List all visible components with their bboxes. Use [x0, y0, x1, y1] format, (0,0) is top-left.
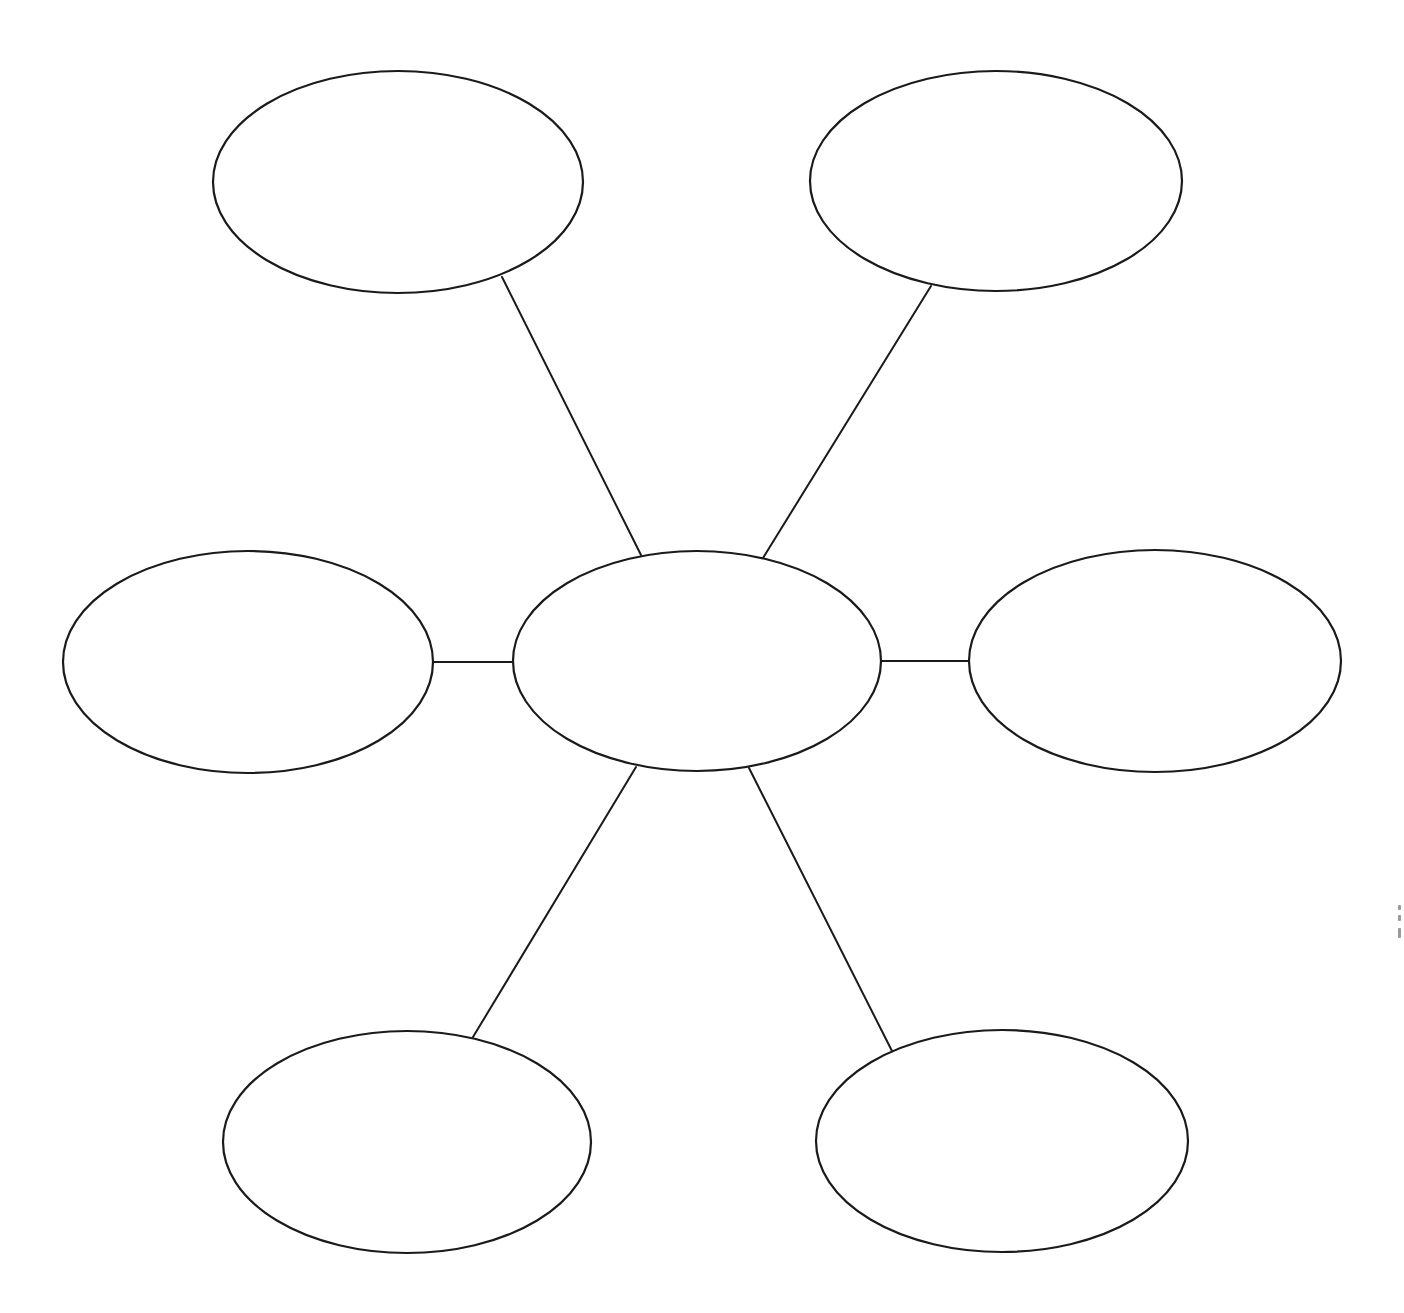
connector-bottom-left — [473, 767, 636, 1037]
branch-node-middle-right-ellipse[interactable] — [969, 550, 1341, 772]
branch-node-bottom-right-ellipse[interactable] — [816, 1030, 1188, 1252]
branch-node-middle-left-ellipse[interactable] — [63, 551, 433, 773]
edge-artifact-mark — [1398, 915, 1401, 921]
connector-top-left — [502, 277, 641, 555]
center-node[interactable] — [513, 551, 881, 771]
branch-node-middle-right[interactable] — [969, 550, 1341, 772]
branch-node-middle-left[interactable] — [63, 551, 433, 773]
branch-node-top-right-ellipse[interactable] — [810, 71, 1182, 291]
connector-bottom-right — [749, 768, 892, 1051]
edge-artifact-mark — [1398, 928, 1401, 938]
branch-node-bottom-left-ellipse[interactable] — [223, 1031, 591, 1253]
branch-node-bottom-left[interactable] — [223, 1031, 591, 1253]
nodes-group — [63, 71, 1341, 1253]
branch-node-bottom-right[interactable] — [816, 1030, 1188, 1252]
branch-node-top-left[interactable] — [213, 71, 583, 293]
connector-top-right — [763, 286, 931, 558]
spider-map-diagram — [0, 0, 1404, 1313]
edge-artifact-mark — [1398, 905, 1401, 910]
branch-node-top-left-ellipse[interactable] — [213, 71, 583, 293]
branch-node-top-right[interactable] — [810, 71, 1182, 291]
center-node-ellipse[interactable] — [513, 551, 881, 771]
